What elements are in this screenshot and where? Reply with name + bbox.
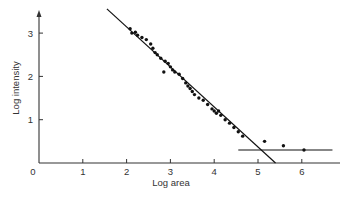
y-tick-label: 1 [28,114,33,125]
data-point [130,31,133,34]
x-tick-label: 0 [30,166,35,177]
data-point [186,84,189,87]
data-point [140,36,143,39]
data-point [145,38,148,41]
scatter-chart: 0123456 123 Log area Log intensity [0,0,356,197]
data-point [219,114,222,117]
y-tick-label: 2 [28,71,33,82]
data-point [188,87,191,90]
x-tick-label: 1 [80,166,85,177]
data-point [206,103,209,106]
x-tick-label: 3 [168,166,173,177]
x-ticks: 0123456 [30,159,304,177]
y-ticks: 123 [28,28,43,126]
data-point [156,53,159,56]
data-point [232,126,235,129]
data-point [159,57,162,60]
data-point [302,148,305,151]
data-point [197,96,200,99]
data-point [128,27,131,30]
data-point [217,109,220,112]
data-point [162,70,165,73]
data-point [202,99,205,102]
data-point [151,47,154,50]
data-point [136,34,139,37]
data-point [149,42,152,45]
data-point [169,65,172,68]
y-tick-label: 3 [28,28,33,39]
x-tick-label: 4 [212,166,217,177]
x-axis-label: Log area [152,177,190,188]
y-axis-label: Log intensity [10,61,21,115]
data-point [163,60,166,63]
data-point [241,134,244,137]
x-tick-label: 5 [255,166,260,177]
data-point [191,90,194,93]
data-point [177,73,180,76]
data-point [282,144,285,147]
data-point [228,121,231,124]
x-tick-label: 6 [299,166,304,177]
data-point [134,31,137,34]
data-point [263,140,266,143]
data-point [184,81,187,84]
data-point [223,118,226,121]
data-point [173,70,176,73]
data-point [181,77,184,80]
data-point [167,62,170,65]
data-points [128,27,305,152]
y-axis-arrow-icon [37,10,42,17]
x-tick-label: 2 [124,166,129,177]
fit-lines [107,9,333,163]
data-point [193,93,196,96]
data-point [237,130,240,133]
